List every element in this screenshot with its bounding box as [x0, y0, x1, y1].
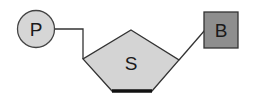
nucleotide-diagram: P S B — [0, 0, 256, 105]
phosphate-label: P — [30, 19, 43, 40]
base-node: B — [204, 12, 238, 48]
phosphate-sugar-bond — [55, 29, 83, 59]
sugar-base-bond — [179, 30, 205, 60]
phosphate-node: P — [18, 11, 55, 48]
sugar-label: S — [125, 53, 138, 74]
sugar-node: S — [83, 30, 179, 91]
base-label: B — [215, 20, 228, 41]
